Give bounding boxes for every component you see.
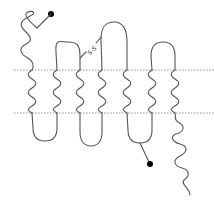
transmembrane-helices (28, 70, 179, 113)
intracellular-loop-3 (127, 113, 152, 143)
helix-4 (98, 70, 106, 113)
disulfide-label: S-S (86, 44, 98, 56)
n-terminus (21, 11, 54, 70)
extracellular-loop-2 (101, 22, 127, 70)
c-terminus-tail (173, 113, 190, 195)
helix-6 (148, 70, 156, 113)
protein-topology-diagram: S-S (0, 0, 214, 204)
helix-1 (28, 70, 36, 113)
intracellular-loop-dot-icon (147, 161, 153, 167)
helix-7 (171, 70, 179, 113)
extracellular-loops (56, 22, 175, 70)
helix-3 (76, 70, 84, 113)
intracellular-loop-1 (32, 113, 57, 141)
intracellular-loop-2 (80, 113, 102, 146)
helix-2 (53, 70, 61, 113)
extracellular-loop-1 (56, 41, 80, 70)
helix-5 (123, 70, 131, 113)
intracellular-loops (32, 113, 153, 167)
extracellular-loop-3 (151, 42, 175, 70)
disulfide-bond: S-S (80, 37, 101, 58)
